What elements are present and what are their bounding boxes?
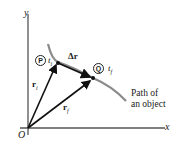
- diagram-graphics: [0, 0, 185, 148]
- r-initial-label: ri: [32, 80, 38, 91]
- origin-label: O: [18, 130, 25, 140]
- delta-r-vector: [58, 63, 90, 77]
- object-path-curve: [48, 44, 126, 101]
- path-label-line2: an object: [131, 100, 166, 110]
- path-label-line1: Path of: [131, 89, 158, 99]
- point-p-dot: [56, 61, 60, 65]
- point-p-time: ti: [48, 56, 52, 67]
- delta-r-label: Δr: [68, 52, 78, 61]
- displacement-diagram: y x O P ti Q tf Δr ri rf Path of an obje…: [0, 0, 185, 148]
- point-q-time: tf: [108, 64, 112, 75]
- point-p-marker: P: [35, 55, 46, 66]
- point-q-marker: Q: [93, 63, 104, 74]
- y-axis-label: y: [24, 8, 28, 18]
- x-axis-label: x: [165, 122, 169, 132]
- r-final-label: rf: [63, 103, 69, 114]
- point-q-dot: [91, 76, 95, 80]
- r-initial-vector: [28, 65, 56, 128]
